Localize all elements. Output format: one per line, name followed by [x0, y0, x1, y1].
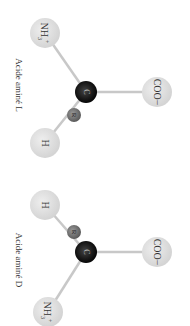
- carboxyl-atom: COO−: [142, 77, 172, 107]
- amine-atom: NH3+: [30, 18, 60, 48]
- hydrogen-label: H: [40, 201, 51, 208]
- hydrogen-label: H: [40, 139, 51, 146]
- molecule-d: H COO− NH3+ R C Acide aminé D: [14, 190, 172, 326]
- r-group-atom: R: [67, 108, 81, 122]
- amine-label: NH: [39, 23, 50, 37]
- molecule-label-l: Acide aminé L: [14, 58, 24, 111]
- amino-acid-diagram: NH3+ COO− H C R Acide aminé L H: [0, 0, 190, 326]
- carbon-atom: C: [75, 241, 97, 263]
- hydrogen-atom: H: [30, 128, 60, 158]
- carboxyl-atom: COO−: [142, 237, 172, 267]
- carbon-label: C: [82, 89, 91, 94]
- molecule-l: NH3+ COO− H C R Acide aminé L: [14, 18, 172, 158]
- carbon-label: C: [82, 249, 91, 254]
- hydrogen-atom: H: [30, 190, 60, 220]
- molecule-label-d: Acide aminé D: [14, 233, 24, 288]
- r-group-label: R: [70, 113, 78, 118]
- r-group-atom: R: [67, 225, 81, 239]
- r-group-label: R: [70, 230, 78, 235]
- carbon-atom: C: [75, 81, 97, 103]
- amine-atom: NH3+: [33, 297, 63, 326]
- amine-label: NH: [42, 302, 53, 316]
- carboxyl-label: COO−: [152, 79, 163, 106]
- carboxyl-label: COO−: [152, 239, 163, 266]
